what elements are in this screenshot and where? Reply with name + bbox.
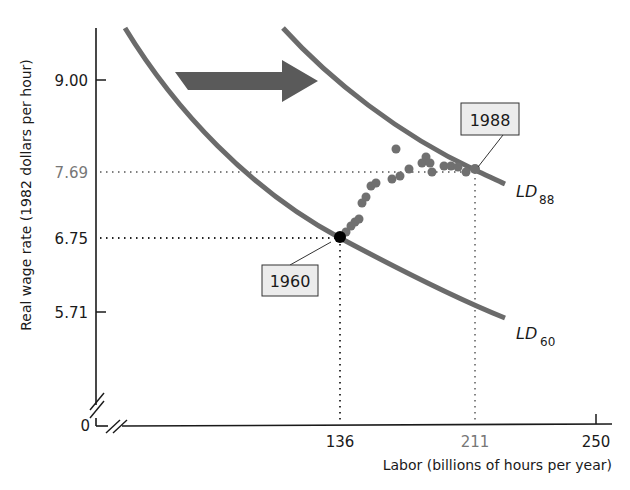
y-axis-break-icon <box>90 393 104 418</box>
year-label-1960: 1960 <box>270 272 311 291</box>
year-label-1988: 1988 <box>470 111 511 130</box>
x-tick-label-250: 250 <box>582 433 611 451</box>
shift-arrow-icon <box>175 60 318 102</box>
ld60-label-sub: 60 <box>540 335 555 349</box>
x-tick-label-136: 136 <box>326 433 355 451</box>
chart-canvas: 1960 1988 LD 88 LD 60 9.00 7.69 6.75 5.7… <box>0 0 630 490</box>
scatter-points <box>342 145 481 237</box>
ld88-label-sub: 88 <box>539 193 554 207</box>
callout-leader-1988 <box>478 135 503 167</box>
x-axis-title: Labor (billions of hours per year) <box>383 457 612 473</box>
label-box-1960: 1960 <box>262 265 318 296</box>
x-axis-line <box>122 424 612 426</box>
ld60-label-main: LD <box>516 324 537 343</box>
ld88-label-main: LD <box>516 182 537 201</box>
y-axis-title: Real wage rate (1982 dollars per hour) <box>18 59 34 331</box>
y-tick-label-900: 9.00 <box>55 72 88 90</box>
x-tick-label-211: 211 <box>461 433 490 451</box>
y-tick-label-769: 7.69 <box>55 164 88 182</box>
y-tick-label-571: 5.71 <box>55 304 88 322</box>
ld88-label: LD 88 <box>516 182 554 207</box>
origin-label: 0 <box>80 417 90 435</box>
callout-leader-1960 <box>290 242 331 265</box>
y-tick-label-675: 6.75 <box>55 230 88 248</box>
point-1960 <box>334 231 346 243</box>
ld60-label: LD 60 <box>516 324 555 349</box>
label-box-1988: 1988 <box>461 103 519 135</box>
